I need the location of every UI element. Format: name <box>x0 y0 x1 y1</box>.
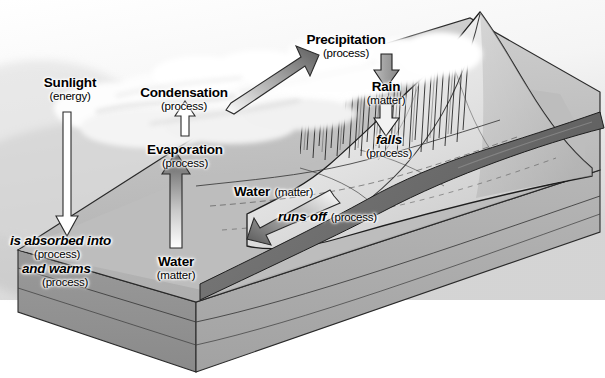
arrow-rain-falls-down <box>374 104 399 136</box>
arrow-condensation-up-right <box>226 46 319 114</box>
arrow-water-rises-up <box>162 152 190 248</box>
water-cycle-diagram: Sunlight (energy) Condensation (process)… <box>0 0 605 378</box>
arrow-sunlight-down <box>56 112 78 236</box>
arrow-layer <box>0 0 605 378</box>
arrow-runs-off-left <box>247 190 340 245</box>
diagram-scene: Sunlight (energy) Condensation (process)… <box>0 0 605 378</box>
arrow-evaporation-up <box>175 101 195 136</box>
arrow-precipitation-down <box>374 54 399 88</box>
